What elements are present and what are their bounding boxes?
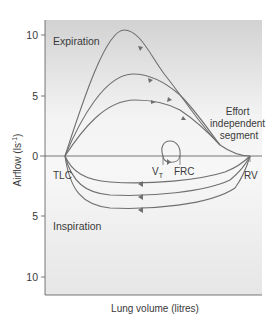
plot-area	[45, 20, 262, 295]
y-tick-label: 0	[32, 150, 38, 162]
y-tick-label: 5	[32, 210, 38, 222]
frc-label: FRC	[174, 166, 195, 177]
y-axis-label: Airflow (ls-1)	[11, 134, 23, 187]
y-tick-label: 5	[32, 90, 38, 102]
inspiration-label: Inspiration	[53, 220, 102, 232]
x-axis-label: Lung volume (litres)	[111, 303, 199, 314]
y-tick-label: 10	[26, 271, 38, 283]
expiration-label: Expiration	[53, 35, 100, 47]
tlc-label: TLC	[53, 170, 72, 181]
rv-label: RV	[244, 170, 258, 181]
y-tick-label: 10	[26, 29, 38, 41]
flow-volume-chart: 10 5 0 5 10 Airflow (ls-1) Lung volume (…	[0, 0, 274, 322]
